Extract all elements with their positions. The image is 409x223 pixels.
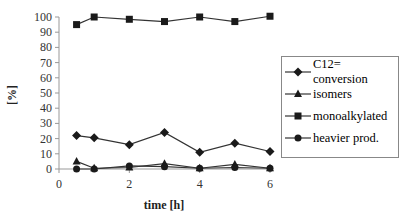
data-point bbox=[91, 166, 98, 173]
y-tick-label: 50 bbox=[40, 86, 52, 100]
y-tick-label: 30 bbox=[40, 116, 52, 130]
data-point bbox=[267, 165, 274, 172]
data-point bbox=[231, 18, 238, 25]
x-tick-label: 6 bbox=[267, 177, 273, 191]
data-point bbox=[195, 148, 204, 157]
y-tick-label: 20 bbox=[40, 132, 52, 146]
data-point bbox=[126, 162, 133, 169]
series-monoalkylated bbox=[73, 13, 273, 28]
legend-label: heavier prod. bbox=[313, 131, 379, 146]
data-point bbox=[160, 128, 169, 137]
chart-legend: C12= conversionisomersmonoalkylatedheavi… bbox=[281, 56, 399, 158]
data-point bbox=[196, 165, 203, 172]
y-tick-label: 80 bbox=[40, 40, 52, 54]
triangle-marker-icon bbox=[285, 89, 311, 99]
x-axis-ticks: 0246 bbox=[56, 169, 273, 191]
legend-label: C12= conversion bbox=[313, 57, 398, 87]
y-axis-title: [%] bbox=[5, 85, 19, 105]
x-tick-label: 2 bbox=[126, 177, 132, 191]
x-axis-title: time [h] bbox=[144, 198, 184, 212]
data-point bbox=[196, 14, 203, 21]
series-c12-conversion bbox=[72, 128, 274, 157]
data-point bbox=[91, 14, 98, 21]
x-tick-label: 0 bbox=[56, 177, 62, 191]
data-point bbox=[72, 131, 81, 140]
y-tick-label: 100 bbox=[34, 10, 52, 24]
y-tick-label: 40 bbox=[40, 101, 52, 115]
plot-area bbox=[72, 13, 274, 173]
data-point bbox=[161, 18, 168, 25]
data-point bbox=[266, 147, 275, 156]
y-tick-label: 0 bbox=[46, 162, 52, 176]
legend-item: C12= conversion bbox=[282, 61, 398, 83]
legend-label: monoalkylated bbox=[313, 109, 387, 124]
circle-marker-icon bbox=[285, 133, 311, 143]
y-tick-label: 90 bbox=[40, 25, 52, 39]
y-tick-label: 10 bbox=[40, 147, 52, 161]
data-point bbox=[231, 164, 238, 171]
data-point bbox=[73, 21, 80, 28]
legend-label: isomers bbox=[313, 87, 352, 102]
square-marker-icon bbox=[285, 111, 311, 121]
data-point bbox=[73, 157, 81, 165]
data-point bbox=[267, 13, 274, 20]
data-point bbox=[126, 16, 133, 23]
data-point bbox=[73, 166, 80, 173]
diamond-marker-icon bbox=[285, 67, 311, 77]
data-point bbox=[125, 140, 134, 149]
data-point bbox=[90, 133, 99, 142]
y-tick-label: 70 bbox=[40, 56, 52, 70]
y-tick-label: 60 bbox=[40, 71, 52, 85]
x-tick-label: 4 bbox=[197, 177, 203, 191]
data-point bbox=[161, 163, 168, 170]
y-axis-ticks: 0102030405060708090100 bbox=[34, 10, 59, 176]
legend-item: heavier prod. bbox=[282, 127, 398, 149]
data-point bbox=[230, 139, 239, 148]
legend-item: monoalkylated bbox=[282, 105, 398, 127]
